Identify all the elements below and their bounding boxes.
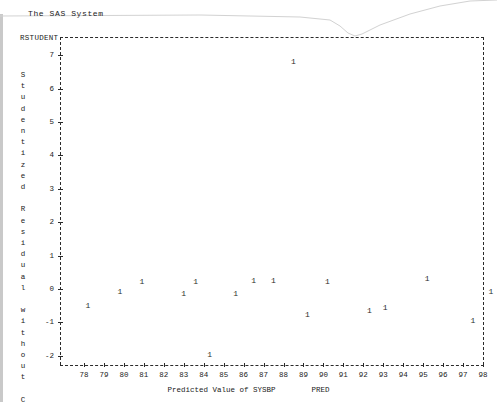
x-tick-label: 95 [413, 371, 433, 379]
x-tick [184, 363, 185, 367]
x-tick [403, 363, 404, 367]
plot-frame-top [60, 37, 484, 38]
x-tick-label: 85 [214, 371, 234, 379]
data-point: 1 [366, 307, 372, 315]
x-tick [224, 363, 225, 367]
y-tick [58, 122, 63, 123]
x-tick [204, 363, 205, 367]
x-tick-label: 88 [274, 371, 294, 379]
x-tick [124, 363, 125, 367]
x-tick-label: 81 [134, 371, 154, 379]
x-axis-title: Predicted Value of SYSBP PRED [0, 386, 497, 394]
y-tick [58, 189, 63, 190]
x-tick-label: 98 [473, 371, 493, 379]
x-tick [164, 363, 165, 367]
y-tick-label: 7 [28, 51, 54, 59]
y-tick [58, 222, 63, 223]
data-point: 1 [424, 275, 430, 283]
x-tick-label: 92 [353, 371, 373, 379]
x-tick [383, 363, 384, 367]
y-tick-label: 1 [28, 252, 54, 260]
x-tick-label: 83 [174, 371, 194, 379]
x-tick-label: 87 [254, 371, 274, 379]
x-tick [84, 363, 85, 367]
data-point: 1 [181, 290, 187, 298]
x-tick [363, 363, 364, 367]
x-tick [343, 363, 344, 367]
data-point: 1 [488, 288, 494, 296]
x-tick-label: 80 [114, 371, 134, 379]
y-tick-label: 3 [28, 185, 54, 193]
y-tick-label: 4 [28, 151, 54, 159]
data-point: 1 [324, 278, 330, 286]
y-tick [58, 155, 63, 156]
data-point: 1 [233, 290, 239, 298]
data-point: 1 [139, 278, 145, 286]
y-tick-label: -1 [28, 318, 54, 326]
plot-frame-left [60, 37, 61, 365]
y-tick-label: 0 [28, 285, 54, 293]
y-tick-label: -2 [28, 352, 54, 360]
x-tick-label: 90 [313, 371, 333, 379]
y-tick [58, 89, 63, 90]
y-axis-title: S t u d e n t i z e d R e s i d u a l w … [18, 70, 28, 402]
x-tick-label: 91 [333, 371, 353, 379]
x-tick [463, 363, 464, 367]
y-tick-label: 5 [28, 118, 54, 126]
x-tick-label: 84 [194, 371, 214, 379]
x-tick [483, 363, 484, 367]
scatter-plot: RSTUDENT S t u d e n t i z e d R e s i d… [0, 0, 497, 402]
x-tick-label: 94 [393, 371, 413, 379]
x-tick-label: 89 [293, 371, 313, 379]
x-tick [264, 363, 265, 367]
y-tick-label: 6 [28, 85, 54, 93]
x-tick [423, 363, 424, 367]
y-tick [58, 356, 63, 357]
data-point: 1 [470, 317, 476, 325]
y-tick [58, 55, 63, 56]
y-axis-name-label: RSTUDENT [20, 34, 58, 42]
x-tick-label: 97 [453, 371, 473, 379]
data-point: 1 [193, 278, 199, 286]
x-tick-label: 79 [94, 371, 114, 379]
x-tick-label: 93 [373, 371, 393, 379]
x-tick-label: 86 [234, 371, 254, 379]
x-tick [244, 363, 245, 367]
x-tick [104, 363, 105, 367]
data-point: 1 [207, 351, 213, 359]
x-tick [144, 363, 145, 367]
data-point: 1 [382, 304, 388, 312]
data-point: 1 [304, 311, 310, 319]
y-tick-label: 2 [28, 218, 54, 226]
data-point: 1 [271, 277, 277, 285]
data-point: 1 [117, 288, 123, 296]
x-tick-label: 99 [493, 371, 497, 379]
x-tick [323, 363, 324, 367]
plot-frame-right [483, 37, 484, 365]
x-tick [303, 363, 304, 367]
y-tick [58, 289, 63, 290]
x-tick [443, 363, 444, 367]
data-point: 1 [290, 58, 296, 66]
x-tick-label: 96 [433, 371, 453, 379]
y-tick [58, 256, 63, 257]
x-tick-label: 82 [154, 371, 174, 379]
x-tick-label: 78 [74, 371, 94, 379]
x-tick [284, 363, 285, 367]
data-point: 1 [251, 277, 257, 285]
y-tick [58, 322, 63, 323]
data-point: 1 [85, 302, 91, 310]
